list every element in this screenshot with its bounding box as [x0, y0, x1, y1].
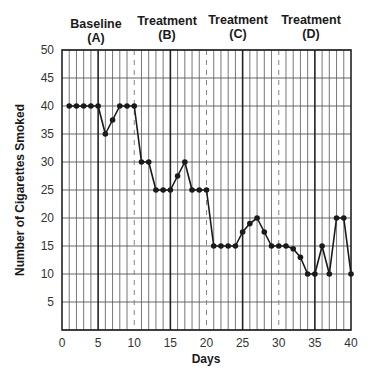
data-point-marker — [95, 103, 101, 109]
data-point-marker — [88, 103, 94, 109]
phase-a-name: Baseline — [70, 17, 121, 31]
data-point-marker — [247, 221, 253, 227]
phase-c-code: (C) — [229, 27, 246, 41]
y-tick-label: 45 — [41, 71, 55, 85]
data-point-marker — [233, 243, 239, 249]
data-point-marker — [334, 215, 340, 221]
data-point-marker — [298, 254, 304, 260]
data-point-marker — [319, 243, 325, 249]
data-point-marker — [218, 243, 224, 249]
x-tick-label: 0 — [59, 336, 66, 350]
data-point-marker — [341, 215, 347, 221]
data-point-marker — [168, 187, 174, 193]
data-point-marker — [81, 103, 87, 109]
data-point-marker — [131, 103, 137, 109]
data-point-marker — [269, 243, 275, 249]
x-tick-label: 5 — [95, 336, 102, 350]
x-axis-title: Days — [192, 352, 221, 366]
phase-b-code: (B) — [158, 28, 175, 42]
phase-a-code: (A) — [87, 31, 104, 45]
y-tick-label: 25 — [41, 183, 55, 197]
phase-d-code: (D) — [302, 27, 319, 41]
phase-c-name: Treatment — [208, 13, 269, 27]
data-point-marker — [225, 243, 231, 249]
phase-d-name: Treatment — [281, 13, 342, 27]
line-chart: Baseline (A) Treatment (B) Treatment (C)… — [0, 0, 374, 381]
data-point-marker — [204, 187, 210, 193]
y-tick-label: 50 — [41, 43, 55, 57]
data-point-marker — [305, 271, 311, 277]
x-tick-label: 25 — [236, 336, 250, 350]
data-point-marker — [276, 243, 282, 249]
data-point-marker — [66, 103, 72, 109]
data-point-marker — [254, 215, 260, 221]
y-tick-label: 5 — [47, 295, 54, 309]
data-point-marker — [211, 243, 217, 249]
x-tick-label: 35 — [308, 336, 322, 350]
data-point-marker — [146, 159, 152, 165]
data-point-marker — [312, 271, 318, 277]
data-point-marker — [196, 187, 202, 193]
data-point-marker — [182, 159, 188, 165]
y-tick-label: 15 — [41, 239, 55, 253]
phase-labels: Baseline (A) Treatment (B) Treatment (C)… — [70, 13, 341, 45]
data-point-marker — [348, 271, 354, 277]
data-point-marker — [74, 103, 80, 109]
data-point-marker — [240, 229, 246, 235]
data-point-marker — [110, 117, 116, 123]
data-point-marker — [327, 271, 333, 277]
data-point-marker — [290, 246, 296, 252]
x-tick-label: 10 — [128, 336, 142, 350]
x-tick-label: 15 — [164, 336, 178, 350]
data-point-marker — [153, 187, 159, 193]
data-point-marker — [117, 103, 123, 109]
y-tick-label: 30 — [41, 155, 55, 169]
y-tick-label: 20 — [41, 211, 55, 225]
y-tick-label: 40 — [41, 99, 55, 113]
phase-b-name: Treatment — [137, 14, 198, 28]
data-point-marker — [139, 159, 145, 165]
data-point-marker — [189, 187, 195, 193]
data-point-marker — [283, 243, 289, 249]
data-point-marker — [262, 229, 268, 235]
data-point-marker — [175, 173, 181, 179]
x-tick-label: 20 — [200, 336, 214, 350]
data-point-marker — [160, 187, 166, 193]
data-point-marker — [103, 131, 109, 137]
y-tick-label: 35 — [41, 127, 55, 141]
x-tick-label: 30 — [272, 336, 286, 350]
y-tick-label: 10 — [41, 267, 55, 281]
y-axis-title: Number of Cigarettes Smoked — [13, 104, 27, 276]
data-point-marker — [124, 103, 130, 109]
x-tick-label: 40 — [344, 336, 358, 350]
